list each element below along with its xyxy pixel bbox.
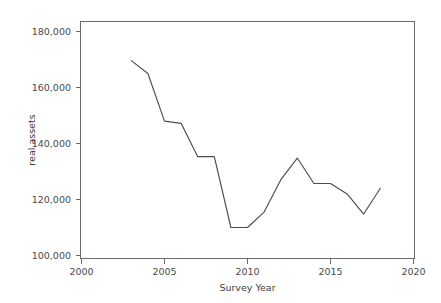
x-tick-label-2015: 2015 [318, 266, 342, 277]
x-axis-title: Survey Year [219, 282, 275, 293]
y-tick-label-120000: 120,000 [32, 194, 71, 205]
y-tick-label-140000: 140,000 [32, 138, 71, 149]
x-tick-label-2000: 2000 [69, 266, 93, 277]
x-tick-label-2010: 2010 [235, 266, 259, 277]
line-chart: 180,000 160,000 140,000 120,000 100,000 … [0, 0, 441, 303]
chart-container: 180,000 160,000 140,000 120,000 100,000 … [0, 0, 441, 303]
y-axis-title: real assets [26, 114, 37, 165]
y-tick-label-100000: 100,000 [32, 250, 71, 261]
x-tick-label-2020: 2020 [401, 266, 425, 277]
x-tick-label-2005: 2005 [152, 266, 176, 277]
y-tick-label-180000: 180,000 [32, 26, 71, 37]
y-tick-label-160000: 160,000 [32, 82, 71, 93]
